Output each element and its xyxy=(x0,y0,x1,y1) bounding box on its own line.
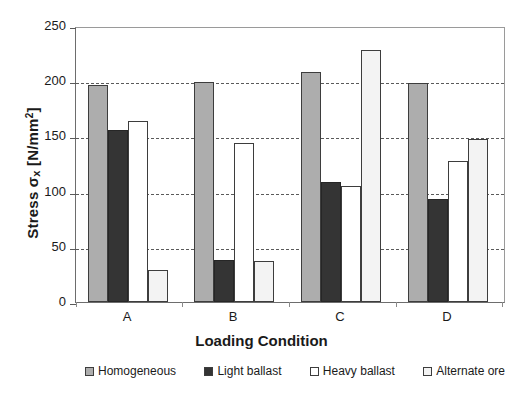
x-axis-tick-mark xyxy=(289,302,290,307)
y-axis-tick-mark xyxy=(70,194,76,195)
bar-D-heavy-ballast xyxy=(448,161,468,302)
y-axis-tick-mark xyxy=(70,138,76,139)
legend-swatch-icon xyxy=(310,367,319,376)
legend-label: Homogeneous xyxy=(98,364,176,378)
bar-chart-figure: Stress σx [N/mm2] 050100150200250 ABCD L… xyxy=(0,0,523,404)
legend-item-alternate-ore: Alternate ore xyxy=(423,364,505,378)
legend-swatch-icon xyxy=(204,367,213,376)
gridline xyxy=(76,83,504,84)
y-axis-title-units-exponent: 2 xyxy=(24,113,35,119)
x-axis-category-label-D: D xyxy=(417,309,477,324)
y-axis-tick-label: 100 xyxy=(28,184,66,199)
y-axis-title-subscript: x xyxy=(30,170,42,176)
x-axis-category-label-A: A xyxy=(97,309,157,324)
bar-C-heavy-ballast xyxy=(341,186,361,302)
y-axis-tick-label: 150 xyxy=(28,128,66,143)
plot-area xyxy=(75,27,505,303)
y-axis-tick-mark xyxy=(70,249,76,250)
bar-B-heavy-ballast xyxy=(234,143,254,302)
bar-D-light-ballast xyxy=(428,199,448,302)
legend-label: Alternate ore xyxy=(436,364,505,378)
x-axis-category-label-B: B xyxy=(203,309,263,324)
legend-item-homogeneous: Homogeneous xyxy=(85,364,176,378)
bar-B-alternate-ore xyxy=(254,261,274,302)
legend-swatch-icon xyxy=(85,367,94,376)
bar-C-alternate-ore xyxy=(361,50,381,302)
bar-A-heavy-ballast xyxy=(128,121,148,302)
legend: HomogeneousLight ballastHeavy ballastAlt… xyxy=(85,364,505,378)
y-axis-title-units: [N/mm xyxy=(24,118,41,170)
y-axis-title-units-end: ] xyxy=(24,107,41,112)
legend-item-light-ballast: Light ballast xyxy=(204,364,281,378)
x-axis-title: Loading Condition xyxy=(0,332,523,349)
legend-label: Heavy ballast xyxy=(323,364,395,378)
x-axis-tick-mark xyxy=(396,302,397,307)
legend-item-heavy-ballast: Heavy ballast xyxy=(310,364,395,378)
bar-C-light-ballast xyxy=(321,182,341,302)
bar-B-light-ballast xyxy=(214,260,234,302)
y-axis-tick-label: 250 xyxy=(28,18,66,33)
bar-D-homogeneous xyxy=(408,83,428,302)
y-axis-tick-label: 200 xyxy=(28,73,66,88)
y-axis-tick-label: 0 xyxy=(28,294,66,309)
y-axis-tick-mark xyxy=(70,83,76,84)
legend-swatch-icon xyxy=(423,367,432,376)
bar-A-homogeneous xyxy=(88,85,108,302)
y-axis-tick-mark xyxy=(70,28,76,29)
x-axis-tick-mark xyxy=(182,302,183,307)
y-axis-tick-label: 50 xyxy=(28,239,66,254)
legend-label: Light ballast xyxy=(217,364,281,378)
bar-A-alternate-ore xyxy=(148,270,168,302)
bar-A-light-ballast xyxy=(108,130,128,302)
bar-B-homogeneous xyxy=(194,82,214,302)
x-axis-tick-mark xyxy=(502,302,503,307)
bar-D-alternate-ore xyxy=(468,139,488,302)
bar-C-homogeneous xyxy=(301,72,321,302)
x-axis-category-label-C: C xyxy=(310,309,370,324)
x-axis-tick-mark xyxy=(76,302,77,307)
